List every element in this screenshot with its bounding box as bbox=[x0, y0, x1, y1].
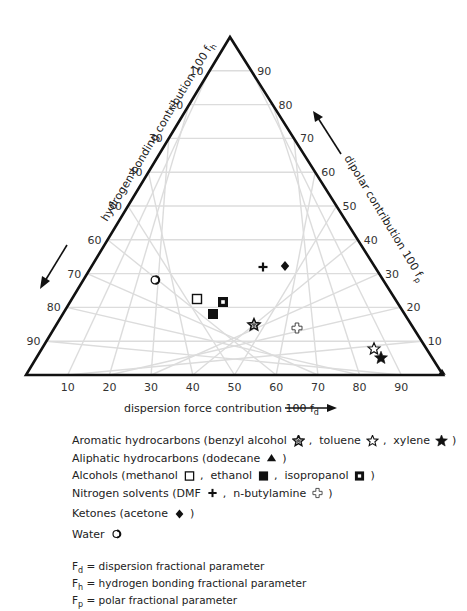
data-point-water bbox=[151, 276, 159, 284]
right-tick-label: 10 bbox=[428, 335, 442, 348]
right-tick-label: 40 bbox=[364, 234, 378, 247]
legend-row: Aliphatic hydrocarbons (dodecane) bbox=[72, 450, 456, 468]
data-point-n-butylamine bbox=[292, 323, 302, 333]
data-point-isopropanol bbox=[218, 297, 228, 307]
right-tick-label: 90 bbox=[257, 65, 271, 78]
bottom-tick-label: 10 bbox=[61, 381, 75, 394]
ternary-chart: 102030405060708090 908070605040302010 10… bbox=[0, 0, 467, 420]
circle-outline-icon bbox=[110, 528, 123, 540]
right-tick-label: 20 bbox=[406, 301, 420, 314]
definition-row: Fd = dispersion fractional parameter bbox=[72, 560, 306, 577]
bottom-tick-label: 40 bbox=[186, 381, 200, 394]
legend-text: , xylene bbox=[383, 432, 430, 450]
plus-outline-icon bbox=[311, 487, 324, 499]
legend-text: ) bbox=[370, 467, 374, 485]
bottom-axis-ticks: 102030405060708090 bbox=[61, 381, 409, 394]
right-tick-label: 50 bbox=[343, 200, 357, 213]
arrow-up-left-icon bbox=[313, 111, 341, 154]
legend-text: ) bbox=[282, 450, 286, 468]
bottom-axis-label-sub: d bbox=[314, 408, 319, 417]
diamond-filled-icon bbox=[173, 508, 186, 520]
legend-text: , ethanol bbox=[200, 467, 252, 485]
legend-text: ) bbox=[452, 432, 456, 450]
right-axis-label: dipolar contribution 100 f bbox=[341, 153, 425, 281]
svg-text:hydrogen bonding contribution: hydrogen bonding contribution 100 fh bbox=[98, 39, 218, 224]
svg-text:dispersion force contribution: dispersion force contribution 100 fd bbox=[124, 402, 319, 417]
legend: Aromatic hydrocarbons (benzyl alcohol, t… bbox=[72, 432, 456, 543]
legend-text: ) bbox=[328, 485, 332, 503]
data-point-acetone bbox=[281, 261, 289, 271]
square-dotted-icon bbox=[353, 470, 366, 482]
legend-text: Aromatic hydrocarbons (benzyl alcohol bbox=[72, 432, 287, 450]
star-outline-icon bbox=[366, 435, 379, 447]
bottom-tick-label: 20 bbox=[102, 381, 116, 394]
right-tick-label: 30 bbox=[385, 268, 399, 281]
bottom-tick-label: 30 bbox=[144, 381, 158, 394]
bottom-tick-label: 70 bbox=[311, 381, 325, 394]
left-tick-label: 80 bbox=[47, 301, 61, 314]
parameter-definitions: Fd = dispersion fractional parameterFh =… bbox=[72, 560, 306, 611]
legend-row: Nitrogen solvents (DMF, n-butylamine) bbox=[72, 485, 456, 503]
right-tick-label: 60 bbox=[321, 166, 335, 179]
legend-text: Aliphatic hydrocarbons (dodecane bbox=[72, 450, 260, 468]
left-axis-label: hydrogen bonding contribution 100 f bbox=[98, 43, 215, 224]
triangle-filled-icon bbox=[265, 452, 278, 464]
left-tick-label: 70 bbox=[67, 268, 81, 281]
right-tick-label: 80 bbox=[279, 99, 293, 112]
svg-text:dipolar contribution 100 fp: dipolar contribution 100 fp bbox=[340, 153, 428, 285]
data-point-methanol bbox=[193, 295, 202, 304]
bottom-tick-label: 50 bbox=[228, 381, 242, 394]
legend-row: Ketones (acetone) bbox=[72, 505, 456, 523]
legend-text: , toluene bbox=[309, 432, 361, 450]
data-point-ethanol bbox=[208, 309, 218, 319]
square-filled-icon bbox=[257, 470, 270, 482]
legend-row: Alcohols (methanol, ethanol, isopropanol… bbox=[72, 467, 456, 485]
square-outline-icon bbox=[183, 470, 196, 482]
right-tick-label: 70 bbox=[300, 132, 314, 145]
legend-text: Alcohols (methanol bbox=[72, 467, 178, 485]
definition-row: Fh = hydrogen bonding fractional paramet… bbox=[72, 577, 306, 594]
legend-text: , n-butylamine bbox=[223, 485, 307, 503]
arrow-down-left-icon bbox=[40, 245, 67, 289]
legend-row: Aromatic hydrocarbons (benzyl alcohol, t… bbox=[72, 432, 456, 450]
bottom-tick-label: 60 bbox=[269, 381, 283, 394]
left-tick-label: 90 bbox=[26, 335, 40, 348]
legend-row: Water bbox=[72, 526, 456, 544]
star-dotted-icon bbox=[292, 435, 305, 447]
legend-text: Water bbox=[72, 526, 105, 544]
left-axis-title: hydrogen bonding contribution 100 fh bbox=[40, 39, 219, 289]
definition-row: Fp = polar fractional parameter bbox=[72, 594, 306, 611]
plus-filled-icon bbox=[206, 487, 219, 499]
bottom-tick-label: 80 bbox=[353, 381, 367, 394]
legend-text: Nitrogen solvents (DMF bbox=[72, 485, 201, 503]
legend-text: ) bbox=[190, 505, 194, 523]
legend-text: Ketones (acetone bbox=[72, 505, 168, 523]
grid-lines bbox=[46, 71, 421, 375]
legend-text: , isopropanol bbox=[274, 467, 348, 485]
data-point-toluene bbox=[368, 343, 380, 354]
bottom-tick-label: 90 bbox=[394, 381, 408, 394]
bottom-axis-title: dispersion force contribution 100 fd bbox=[124, 402, 337, 417]
star-filled-icon bbox=[435, 435, 448, 447]
left-tick-label: 60 bbox=[88, 234, 102, 247]
data-points bbox=[151, 261, 446, 375]
data-point-dmf bbox=[259, 263, 268, 272]
